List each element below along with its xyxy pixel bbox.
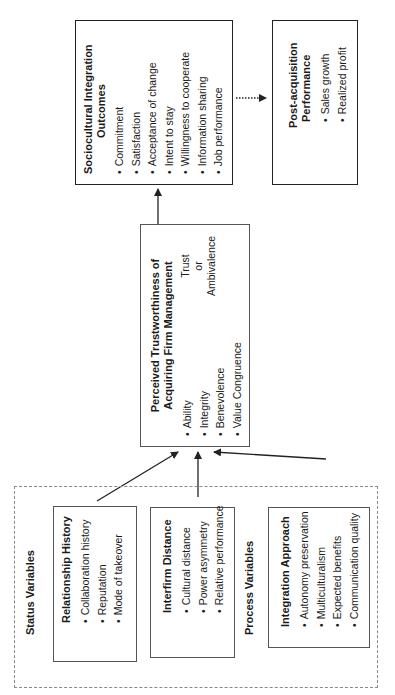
trust-label: Trust xyxy=(179,226,192,306)
post-acquisition-box: Post-acquisition Performance Sales growt… xyxy=(272,20,358,185)
list-item: Intent to stay xyxy=(161,21,178,174)
list-item: Satisfaction xyxy=(128,21,145,174)
relationship-history-box: Relationship History Collaboration histo… xyxy=(53,506,137,662)
trustworthiness-title-1: Perceived Trustworthiness of xyxy=(149,225,162,446)
list-item: Relative performance xyxy=(211,508,228,613)
list-item: Communication quality xyxy=(346,508,363,627)
sociocultural-outcomes-box: Sociocultural Integration Outcomes Commi… xyxy=(75,20,233,185)
list-item: Expected benefits xyxy=(329,508,346,627)
diagram-canvas: Status Variables Relationship History Co… xyxy=(0,0,395,695)
status-variables-label: Status Variables xyxy=(24,550,36,635)
list-item: Collaboration history xyxy=(77,507,94,623)
ambivalence-label: Ambivalence xyxy=(205,226,218,306)
list-item: Reputation xyxy=(94,507,111,623)
arrow-integration-to-trust xyxy=(214,452,326,459)
list-item: Job performance xyxy=(210,21,227,174)
list-item: Commitment xyxy=(111,21,128,174)
sociocultural-title-2: Outcomes xyxy=(95,21,108,174)
trustworthiness-box: Perceived Trustworthiness of Acquiring F… xyxy=(140,224,250,447)
interfirm-distance-title: Interfirm Distance xyxy=(161,508,174,613)
list-item: Multiculturalism xyxy=(313,508,330,627)
integration-approach-box: Integration Approach Autonomy preservati… xyxy=(268,507,370,648)
list-item: Mode of takeover xyxy=(110,507,127,623)
list-item: Willingness to cooperate xyxy=(177,21,194,174)
integration-approach-title: Integration Approach xyxy=(279,508,292,627)
list-item: Acceptance of change xyxy=(144,21,161,174)
list-item: Cultural distance xyxy=(178,508,195,613)
trustworthiness-title-2: Acquiring Firm Management xyxy=(162,225,175,446)
or-label: or xyxy=(192,226,205,306)
post-acquisition-title-1: Post-acquisition xyxy=(287,21,300,128)
sociocultural-title-1: Sociocultural Integration xyxy=(82,21,95,174)
post-acquisition-title-2: Performance xyxy=(300,21,313,128)
interfirm-distance-box: Interfirm Distance Cultural distance Pow… xyxy=(150,507,235,658)
list-item: Autonomy preservation xyxy=(296,508,313,627)
relationship-history-title: Relationship History xyxy=(60,507,73,623)
list-item: Power asymmetry xyxy=(195,508,212,613)
list-item: Realized profit xyxy=(334,21,351,122)
list-item: Sales growth xyxy=(317,21,334,122)
list-item: Information sharing xyxy=(194,21,211,174)
process-variables-label: Process Variables xyxy=(243,541,255,635)
list-item: Value Congruence xyxy=(229,225,246,436)
